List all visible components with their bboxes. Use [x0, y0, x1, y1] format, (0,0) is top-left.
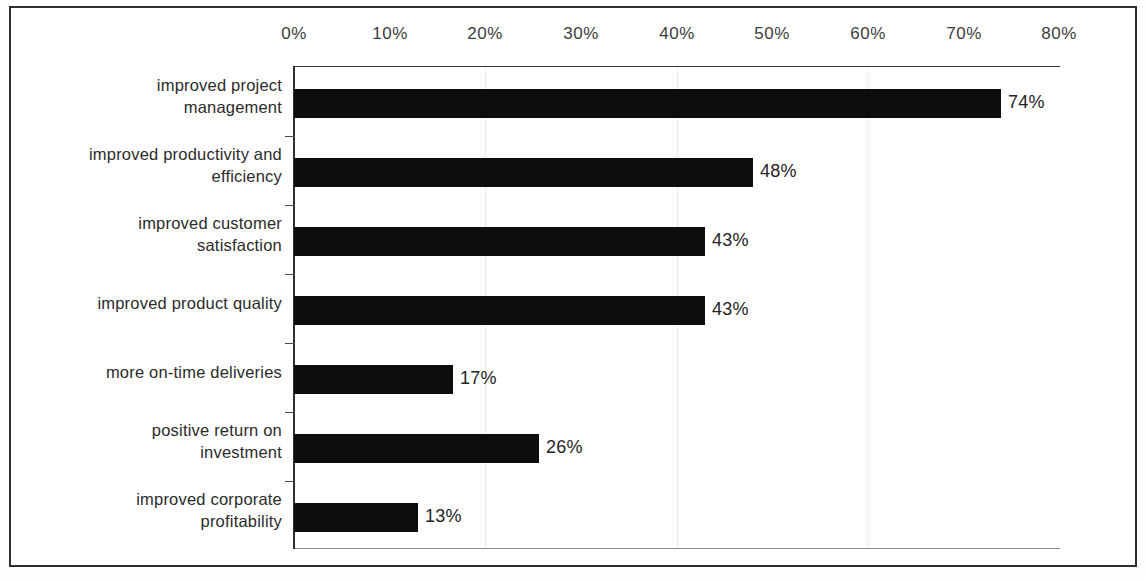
chart-row: improved project management 74%: [0, 66, 1146, 135]
category-label-line: improved product quality: [20, 292, 282, 314]
bar-value-label: 26%: [546, 437, 583, 458]
bar-improved-corporate-profitability: [294, 503, 418, 532]
bar-value-label: 17%: [460, 368, 497, 389]
bar-value-label: 48%: [760, 161, 797, 182]
category-label: positive return on investment: [20, 419, 282, 463]
category-label-line: improved corporate: [20, 488, 282, 510]
category-label-line: improved productivity and: [20, 143, 282, 165]
bar-value-label: 43%: [712, 230, 749, 251]
category-label: improved productivity and efficiency: [20, 143, 282, 187]
chart-row: more on-time deliveries 17%: [0, 342, 1146, 411]
category-label: improved customer satisfaction: [20, 212, 282, 256]
bar-value-label: 74%: [1008, 92, 1045, 113]
bar-value-label: 13%: [425, 506, 462, 527]
xtick-label-60: 60%: [833, 24, 903, 44]
category-label-line: efficiency: [20, 165, 282, 187]
category-label-line: satisfaction: [20, 234, 282, 256]
category-label: improved project management: [20, 74, 282, 118]
bar-improved-project-management: [294, 89, 1001, 118]
category-label: improved corporate profitability: [20, 488, 282, 532]
category-label-line: positive return on: [20, 419, 282, 441]
category-label-line: improved customer: [20, 212, 282, 234]
category-label-line: profitability: [20, 510, 282, 532]
bar-positive-return-on-investment: [294, 434, 539, 463]
category-label-line: management: [20, 96, 282, 118]
bar-improved-productivity-and-efficiency: [294, 158, 753, 187]
xtick-label-70: 70%: [929, 24, 999, 44]
category-label-line: more on-time deliveries: [20, 361, 282, 383]
chart-row: positive return on investment 26%: [0, 411, 1146, 480]
category-label: improved product quality: [20, 292, 282, 314]
xtick-label-0: 0%: [259, 24, 329, 44]
bar-chart-figure: 0% 10% 20% 30% 40% 50% 60% 70% 80% impro…: [0, 0, 1146, 580]
bar-improved-customer-satisfaction: [294, 227, 705, 256]
bar-more-on-time-deliveries: [294, 365, 453, 394]
category-label: more on-time deliveries: [20, 361, 282, 383]
xtick-label-20: 20%: [450, 24, 520, 44]
xtick-label-50: 50%: [737, 24, 807, 44]
bar-value-label: 43%: [712, 299, 749, 320]
chart-row: improved corporate profitability 13%: [0, 480, 1146, 549]
chart-row: improved productivity and efficiency 48%: [0, 135, 1146, 204]
xtick-label-10: 10%: [355, 24, 425, 44]
chart-row: improved customer satisfaction 43%: [0, 204, 1146, 273]
xtick-label-40: 40%: [642, 24, 712, 44]
category-label-line: investment: [20, 441, 282, 463]
chart-row: improved product quality 43%: [0, 273, 1146, 342]
bar-improved-product-quality: [294, 296, 705, 325]
category-label-line: improved project: [20, 74, 282, 96]
xtick-label-80: 80%: [1024, 24, 1094, 44]
xtick-label-30: 30%: [546, 24, 616, 44]
